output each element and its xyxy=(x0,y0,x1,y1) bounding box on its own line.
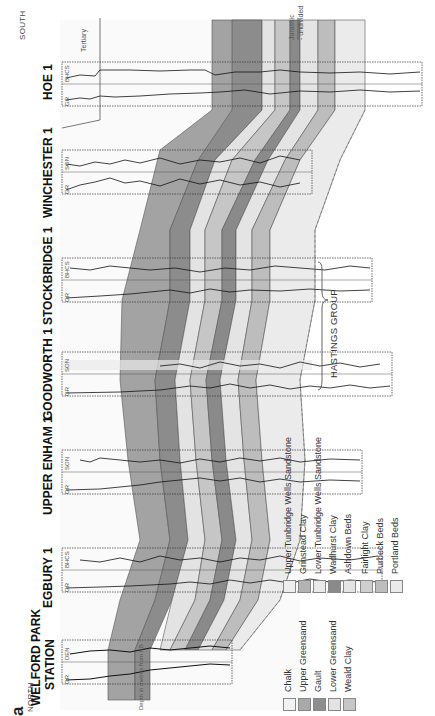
swatch-ashdown-beds xyxy=(343,580,356,593)
legend-wadhurst-clay: Wadhurst Clay xyxy=(328,515,338,574)
swatch-upper-tunbridge xyxy=(283,580,296,593)
panel-letter: a xyxy=(8,707,28,716)
legend-purbeck-beds: Purbeck Beds xyxy=(375,518,385,574)
swatch-gault xyxy=(313,698,326,711)
swatch-lower-tunbridge xyxy=(313,580,326,593)
jurassic-label: Jurassic xyxy=(288,14,295,40)
log-left-upper-enham: GR xyxy=(64,485,70,494)
swatch-chalk xyxy=(283,698,296,711)
log-right-welford: DEN xyxy=(64,647,70,660)
log-left-egbury: GR xyxy=(64,583,70,592)
well-name-goodworth: GOODWORTH 1 xyxy=(42,328,54,420)
legend-gault: Gault xyxy=(313,670,323,692)
swatch-upper-greensand xyxy=(298,698,311,711)
south-label: SOUTH xyxy=(18,11,27,41)
log-left-stockbridge: GR xyxy=(64,293,70,302)
legend-lower-greensand: Lower Greensand xyxy=(328,620,338,692)
legend-portland-beds: Portland Beds xyxy=(390,517,400,574)
well-name-winchester: WINCHESTER 1 xyxy=(42,127,54,218)
well-name-welford-park-1: WELFORD PARK xyxy=(30,609,42,706)
undivided-label: - undivided xyxy=(297,6,304,40)
depth-axis-label: Depth in metres from KB xyxy=(138,644,144,710)
log-right-egbury: BHCS xyxy=(64,551,70,568)
geological-cross-section: a NORTH SOUTH Depth in metres from KB Te… xyxy=(0,0,435,716)
well-name-egbury: EGBURY 1 xyxy=(42,547,54,608)
well-name-hoe: HOE 1 xyxy=(42,64,54,100)
log-left-winchester: GR xyxy=(64,185,70,194)
log-left-hoe: GR xyxy=(64,97,70,106)
legend-chalk: Chalk xyxy=(283,669,293,692)
swatch-weald-clay xyxy=(343,698,356,711)
log-left-goodworth: GR xyxy=(64,387,70,396)
tertiary-label: Tertiary xyxy=(80,29,87,52)
hastings-group-label: HASTINGS GROUP xyxy=(328,289,339,378)
well-name-welford-park-2: STATION xyxy=(44,639,56,690)
legend-upper-tunbridge: Upper Tunbridge Wells Sandstone xyxy=(283,437,293,574)
swatch-portland-beds xyxy=(390,580,403,593)
log-right-hoe: BHCS xyxy=(64,65,70,82)
log-right-stockbridge: BHCS xyxy=(64,261,70,278)
swatch-fairlight-clay xyxy=(360,580,373,593)
legend-weald-clay: Weald Clay xyxy=(343,646,353,692)
legend-fairlight-clay: Fairlight Clay xyxy=(360,521,370,574)
well-name-stockbridge: STOCKBRIDGE 1 xyxy=(42,227,54,325)
log-right-winchester: SON xyxy=(64,157,70,170)
legend-ashdown-beds: Ashdown Beds xyxy=(343,514,353,574)
log-right-goodworth: SON xyxy=(64,359,70,372)
well-name-upper-enham: UPPER ENHAM 1 xyxy=(42,416,54,515)
swatch-grinstead-clay xyxy=(298,580,311,593)
legend-grinstead-clay: Grinstead Clay xyxy=(298,514,308,574)
legend-lower-tunbridge: Lower Tunbridge Wells Sandstone xyxy=(313,437,323,574)
swatch-lower-greensand xyxy=(328,698,341,711)
swatch-purbeck-beds xyxy=(375,580,388,593)
log-left-welford: GR xyxy=(64,675,70,684)
legend-upper-greensand: Upper Greensand xyxy=(298,620,308,692)
log-right-upper-enham: SON xyxy=(64,457,70,470)
swatch-wadhurst-clay xyxy=(328,580,341,593)
